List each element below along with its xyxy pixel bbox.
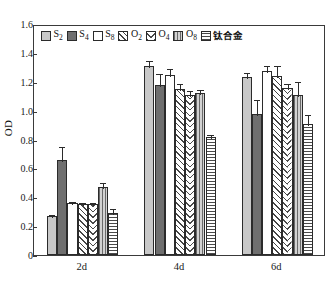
bar xyxy=(144,66,154,255)
y-tick-label: 0.4 xyxy=(5,193,33,203)
legend-label: S4 xyxy=(79,29,88,43)
y-tick-label: 1.4 xyxy=(5,49,33,59)
y-tick-mark xyxy=(33,227,37,228)
error-bar-cap xyxy=(69,202,75,203)
bar xyxy=(272,76,282,255)
error-bar-cap xyxy=(156,74,162,75)
error-bar xyxy=(267,66,268,73)
error-bar-cap xyxy=(167,69,173,70)
y-tick-mark xyxy=(33,25,37,26)
bar xyxy=(78,204,88,255)
legend-label: 钛合金 xyxy=(213,31,243,41)
bar xyxy=(303,124,313,255)
error-bar-cap xyxy=(79,203,85,204)
legend-entry: O4 xyxy=(146,29,169,43)
error-bar-cap xyxy=(197,90,203,91)
bar xyxy=(108,213,118,255)
legend-swatch xyxy=(41,31,51,41)
error-bar xyxy=(170,69,171,78)
error-bar-cap xyxy=(100,183,106,184)
bar xyxy=(47,216,57,255)
legend-label: O2 xyxy=(131,29,142,43)
y-tick-mark xyxy=(33,141,37,142)
error-bar-cap xyxy=(305,115,311,116)
legend-label: S8 xyxy=(105,29,114,43)
error-bar xyxy=(160,74,161,86)
y-axis-ticks: 00.20.40.60.81.01.21.41.6 xyxy=(0,0,33,295)
bar xyxy=(252,114,262,255)
y-tick-mark xyxy=(33,54,37,55)
legend-swatch xyxy=(67,31,77,41)
legend-swatch xyxy=(201,31,211,41)
legend: S2S4S8O2O4O8钛合金 xyxy=(41,29,243,43)
legend-swatch xyxy=(146,31,156,41)
legend-swatch xyxy=(93,31,103,41)
bar xyxy=(282,88,292,255)
error-bar-cap xyxy=(187,91,193,92)
y-tick-label: 1.2 xyxy=(5,78,33,88)
bar xyxy=(57,160,67,255)
legend-entry: O2 xyxy=(118,29,141,43)
error-bar-cap xyxy=(284,84,290,85)
legend-label: O4 xyxy=(158,29,169,43)
error-bar-cap xyxy=(177,84,183,85)
legend-entry: O8 xyxy=(173,29,196,43)
y-tick-label: 0.6 xyxy=(5,164,33,174)
bar xyxy=(185,95,195,255)
bar xyxy=(165,75,175,255)
bar xyxy=(242,77,252,255)
legend-swatch xyxy=(173,31,183,41)
y-tick-mark xyxy=(33,169,37,170)
x-tick-label: 4d xyxy=(174,261,185,272)
error-bar xyxy=(62,147,63,162)
y-tick-label: 0 xyxy=(5,251,33,261)
bar xyxy=(206,137,216,255)
error-bar xyxy=(277,66,278,78)
bar xyxy=(98,187,108,255)
error-bar-cap xyxy=(207,135,213,136)
bar xyxy=(88,204,98,255)
y-tick-mark xyxy=(33,112,37,113)
y-tick-label: 1.6 xyxy=(5,20,33,30)
legend-label: S2 xyxy=(54,29,63,43)
bar xyxy=(262,71,272,255)
error-bar-cap xyxy=(146,61,152,62)
plot-area xyxy=(33,25,325,256)
bar xyxy=(293,95,303,255)
error-bar-cap xyxy=(90,203,96,204)
y-tick-mark xyxy=(33,256,37,257)
error-bar-cap xyxy=(59,147,65,148)
bar xyxy=(175,89,185,255)
y-tick-label: 0.8 xyxy=(5,136,33,146)
legend-entry: S2 xyxy=(41,29,63,43)
error-bar xyxy=(298,82,299,96)
error-bar-cap xyxy=(295,82,301,83)
bar-chart: OD 00.20.40.60.81.01.21.41.6 S2S4S8O2O4O… xyxy=(0,0,332,295)
y-tick-label: 0.2 xyxy=(5,222,33,232)
y-tick-mark xyxy=(33,83,37,84)
legend-label: O8 xyxy=(186,29,197,43)
error-bar-cap xyxy=(274,66,280,67)
legend-entry: S4 xyxy=(67,29,89,43)
y-tick-mark xyxy=(33,198,37,199)
error-bar xyxy=(257,100,258,117)
error-bar-cap xyxy=(49,215,55,216)
error-bar-cap xyxy=(254,100,260,101)
x-tick-label: 6d xyxy=(271,261,282,272)
legend-entry: 钛合金 xyxy=(201,31,244,41)
bar xyxy=(155,85,165,255)
legend-entry: S8 xyxy=(93,29,115,43)
y-tick-label: 1.0 xyxy=(5,107,33,117)
error-bar xyxy=(308,115,309,126)
bar xyxy=(67,203,77,255)
x-tick-label: 2d xyxy=(76,261,87,272)
error-bar-cap xyxy=(110,209,116,210)
bar xyxy=(195,93,205,255)
error-bar-cap xyxy=(264,66,270,67)
error-bar-cap xyxy=(244,73,250,74)
legend-swatch xyxy=(118,31,128,41)
